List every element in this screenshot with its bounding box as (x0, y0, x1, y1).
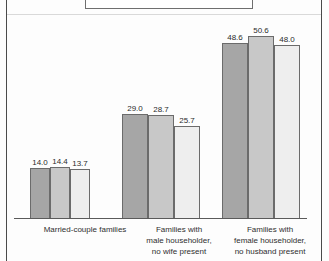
bar-group: 14.014.413.7 (30, 16, 90, 219)
bar: 28.7 (148, 115, 174, 219)
bar-value-label: 29.0 (127, 104, 143, 113)
bar-value-label: 25.7 (179, 116, 195, 125)
bar: 14.4 (50, 167, 70, 219)
plot-area: 14.014.413.729.028.725.748.650.648.0 (14, 16, 314, 219)
bar: 25.7 (174, 126, 200, 219)
bar-value-label: 14.4 (52, 157, 68, 166)
page-border-right (321, 0, 322, 261)
bar-value-label: 50.6 (253, 26, 269, 35)
legend-box-cutoff (85, 0, 253, 9)
bar-group: 48.650.648.0 (222, 16, 300, 219)
bar: 48.0 (274, 45, 300, 219)
bar-value-label: 48.6 (227, 33, 243, 42)
plot-top-rule (7, 14, 321, 15)
x-axis-baseline (14, 218, 307, 219)
bar: 14.0 (30, 168, 50, 219)
page-border-left (6, 0, 7, 261)
bar: 48.6 (222, 43, 248, 219)
bar: 13.7 (70, 169, 90, 219)
bar-group: 29.028.725.7 (122, 16, 200, 219)
bar-value-label: 13.7 (72, 159, 88, 168)
bar-value-label: 14.0 (32, 158, 48, 167)
chart-page: 14.014.413.729.028.725.748.650.648.0 Mar… (0, 0, 329, 261)
x-axis-label-2: Families with female householder, no hus… (211, 224, 329, 257)
bar: 50.6 (248, 36, 274, 219)
bar: 29.0 (122, 114, 148, 219)
bar-value-label: 48.0 (279, 35, 295, 44)
x-axis-labels: Married-couple families Families with ma… (7, 224, 321, 261)
bar-value-label: 28.7 (153, 105, 169, 114)
